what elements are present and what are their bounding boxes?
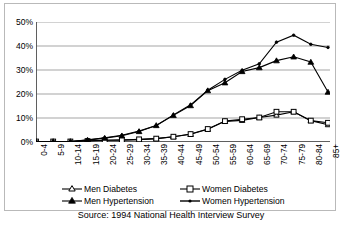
x-tick-label: 75-79 xyxy=(298,144,307,184)
x-tick-label: 20-24 xyxy=(109,144,118,184)
legend-item-men-hypertension: Men Hypertension xyxy=(62,196,154,206)
x-tick-label: 60-64 xyxy=(246,144,255,184)
y-tick-label: 40% xyxy=(3,42,33,51)
y-axis-labels: 50% 40% 30% 20% 10% 0% xyxy=(0,0,33,225)
axes xyxy=(36,22,330,142)
legend-label: Women Hypertension xyxy=(202,196,284,206)
solid-triangle-marker-icon xyxy=(62,196,82,206)
x-tick-label: 25-29 xyxy=(126,144,135,184)
x-tick-label: 80-84 xyxy=(315,144,324,184)
legend-item-women-diabetes: Women Diabetes xyxy=(180,184,268,194)
open-square-marker-icon xyxy=(180,184,200,194)
x-tick-label: 50-54 xyxy=(212,144,221,184)
legend-item-women-hypertension: Women Hypertension xyxy=(180,196,284,206)
x-tick-label: 15-19 xyxy=(92,144,101,184)
x-tick-label: 55-59 xyxy=(229,144,238,184)
y-tick-label: 0% xyxy=(3,138,33,147)
x-tick-label: 30-34 xyxy=(143,144,152,184)
y-tick-label: 10% xyxy=(3,114,33,123)
x-tick-label: 40-44 xyxy=(177,144,186,184)
x-axis-labels: 0-45-910-1415-1920-2425-2930-3435-3940-4… xyxy=(36,144,330,184)
x-tick-label: 70-74 xyxy=(280,144,289,184)
plot-area xyxy=(36,22,330,142)
chart-legend: Men Diabetes Women Diabetes Men Hyperten… xyxy=(62,184,298,208)
x-tick-label: 0-4 xyxy=(40,144,49,184)
solid-dot-marker-icon xyxy=(180,196,200,206)
x-tick-label: 10-14 xyxy=(74,144,83,184)
x-tick-label: 45-49 xyxy=(195,144,204,184)
y-tick-label: 20% xyxy=(3,90,33,99)
y-tick-label: 50% xyxy=(3,18,33,27)
x-tick-label: 85+ xyxy=(332,144,341,184)
legend-label: Women Diabetes xyxy=(202,184,268,194)
y-tick-label: 30% xyxy=(3,66,33,75)
legend-item-men-diabetes: Men Diabetes xyxy=(62,184,137,194)
x-tick-label: 35-39 xyxy=(160,144,169,184)
legend-label: Men Hypertension xyxy=(84,196,154,206)
gridlines xyxy=(36,22,330,118)
chart-figure: 50% 40% 30% 20% 10% 0% 0-45-910-1415-192… xyxy=(0,0,342,225)
data-series xyxy=(36,34,330,142)
x-tick-label: 65-69 xyxy=(263,144,272,184)
x-tick-label: 5-9 xyxy=(57,144,66,184)
open-triangle-marker-icon xyxy=(62,184,82,194)
source-note: Source: 1994 National Health Interview S… xyxy=(0,210,342,220)
legend-label: Men Diabetes xyxy=(84,184,137,194)
